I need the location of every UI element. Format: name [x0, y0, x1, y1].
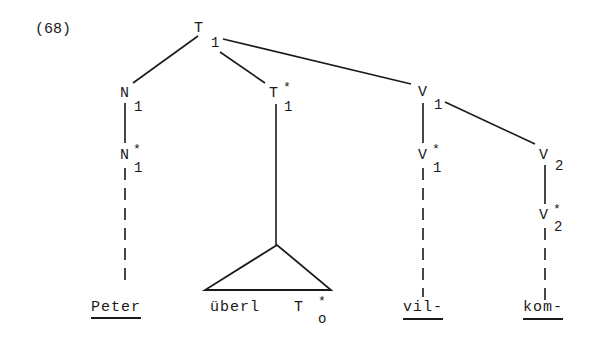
triangle-constituent [205, 245, 331, 290]
edge-t1-n1 [133, 36, 198, 83]
node-n1star-label: N [120, 148, 129, 163]
node-v2star-label: V [539, 208, 548, 223]
leaf-t0star-subscript: o [318, 312, 326, 326]
node-n1star-asterisk: * [133, 143, 141, 156]
node-t1star-subscript: 1 [284, 100, 292, 114]
edge-t1-t1star [220, 52, 265, 83]
node-t1-label: T [194, 21, 203, 36]
tree-edges [0, 0, 607, 340]
leaf-vil: vil- [403, 300, 443, 315]
edge-v1-v2 [445, 102, 535, 144]
node-v1-subscript: 1 [434, 98, 442, 112]
node-n1star-subscript: 1 [134, 161, 142, 175]
leaf-t0star-asterisk: * [318, 295, 326, 308]
node-t1star-asterisk: * [283, 81, 291, 94]
leaf-t0star-label: T [294, 300, 303, 315]
leaf-kom: kom- [523, 300, 563, 315]
node-v1star-subscript: 1 [433, 161, 441, 175]
node-v1star-label: V [418, 148, 427, 163]
node-n1-label: N [120, 86, 129, 101]
node-v2star-subscript: 2 [554, 220, 562, 234]
edge-t1-v1 [223, 39, 411, 84]
node-t1star-label: T [269, 86, 278, 101]
leaf-vil-text: vil- [403, 299, 443, 320]
node-v2-subscript: 2 [555, 159, 563, 173]
node-v1-label: V [418, 85, 427, 100]
leaf-kom-text: kom- [523, 299, 563, 320]
node-v2-label: V [539, 148, 548, 163]
node-n1-subscript: 1 [134, 100, 142, 114]
node-t1-subscript: 1 [211, 36, 219, 50]
leaf-uberl: überl [210, 300, 260, 315]
example-number: (68) [35, 22, 71, 37]
leaf-peter: Peter [91, 300, 141, 319]
node-v1star-asterisk: * [432, 143, 440, 156]
node-v2star-asterisk: * [553, 203, 561, 216]
